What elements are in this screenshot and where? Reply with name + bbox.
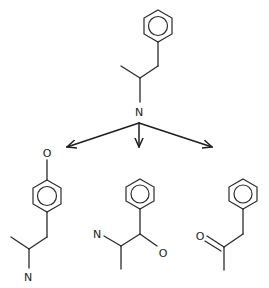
oxygen-label: O	[43, 147, 52, 160]
nitrogen-label: N	[24, 271, 32, 284]
product-left-molecule: O N	[11, 147, 61, 284]
arrow-left	[67, 123, 139, 147]
arrow-right	[139, 123, 212, 147]
benzene-ring	[229, 179, 257, 209]
benzene-ring	[33, 180, 61, 212]
parent-molecule: N	[121, 10, 172, 119]
oxygen-label: O	[196, 230, 205, 243]
benzene-ring	[126, 179, 154, 209]
oxygen-label: O	[159, 247, 168, 260]
nitrogen-label: N	[93, 228, 101, 241]
benzene-ring	[144, 10, 172, 42]
product-middle-molecule: O N	[93, 179, 168, 269]
nitrogen-label: N	[135, 106, 143, 119]
product-right-molecule: O	[196, 179, 257, 270]
reaction-arrows	[67, 123, 212, 147]
reaction-diagram: N O N O N	[0, 0, 269, 288]
